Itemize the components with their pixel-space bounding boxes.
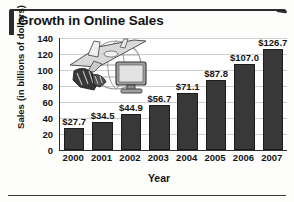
bar: [92, 122, 112, 150]
bar-value-label: $44.9: [119, 102, 143, 113]
x-axis-tick-label: 2004: [176, 152, 197, 163]
bar: [121, 114, 141, 150]
bar-slot: $126.7: [263, 38, 283, 150]
bar: [234, 64, 254, 150]
x-axis-tick-label: 2002: [119, 152, 140, 163]
bar-slot: $71.1: [177, 38, 197, 150]
bar-slot: $56.7: [149, 38, 169, 150]
y-axis-tick-label: 140: [37, 33, 53, 44]
x-axis-tick-label: 2003: [148, 152, 169, 163]
x-axis-tick-label: 2007: [261, 152, 282, 163]
y-axis-label-line1: Sales: [15, 104, 26, 129]
bar: [64, 128, 84, 150]
chart-title: Growth in Online Sales: [18, 13, 164, 28]
bar-slot: $87.8: [206, 38, 226, 150]
bar-value-label: $34.5: [91, 110, 115, 121]
chart-figure: Growth in Online Sales Sales (in billion…: [0, 0, 294, 202]
bar-slot: $27.7: [64, 38, 84, 150]
bar-slot: $107.0: [234, 38, 254, 150]
bar-value-label: $126.7: [258, 37, 287, 48]
y-axis-tick-label: 40: [42, 113, 53, 124]
x-axis-ticks: 20002001200220032004200520062007: [59, 152, 286, 166]
x-axis-tick-label: 2001: [91, 152, 112, 163]
bar-value-label: $56.7: [147, 93, 171, 104]
bar: [263, 49, 283, 150]
x-axis-tick-label: 2000: [63, 152, 84, 163]
plot-area: $27.7$34.5$44.9$56.7$71.1$87.8$107.0$126…: [59, 38, 287, 151]
bar-value-label: $87.8: [204, 68, 228, 79]
plot-area-wrapper: 020406080100120140: [32, 38, 286, 168]
x-axis-tick-label: 2006: [233, 152, 254, 163]
bar: [149, 105, 169, 150]
y-axis-tick-label: 20: [42, 129, 53, 140]
y-axis-tick-label: 100: [37, 65, 53, 76]
bar: [206, 80, 226, 150]
bar-slot: $44.9: [121, 38, 141, 150]
y-axis-tick-label: 80: [42, 81, 53, 92]
bracket-horizontal-rule: [12, 9, 286, 11]
y-axis-label-line2: (in billions of dollars): [15, 5, 26, 101]
bar-value-label: $27.7: [62, 116, 86, 127]
x-axis-tick-label: 2005: [204, 152, 225, 163]
y-axis-ticks: 020406080100120140: [32, 38, 56, 150]
x-axis-label: Year: [32, 172, 286, 184]
bar-value-label: $107.0: [230, 52, 259, 63]
y-axis-tick-label: 60: [42, 97, 53, 108]
bar-value-label: $71.1: [176, 81, 200, 92]
figure-bottom-rule: [8, 195, 286, 197]
y-axis-tick-label: 0: [48, 145, 53, 156]
bar-series: $27.7$34.5$44.9$56.7$71.1$87.8$107.0$126…: [60, 38, 287, 150]
bar: [177, 93, 197, 150]
y-axis-label: Sales (in billions of dollars): [5, 11, 35, 123]
bar-slot: $34.5: [92, 38, 112, 150]
y-axis-tick-label: 120: [37, 49, 53, 60]
